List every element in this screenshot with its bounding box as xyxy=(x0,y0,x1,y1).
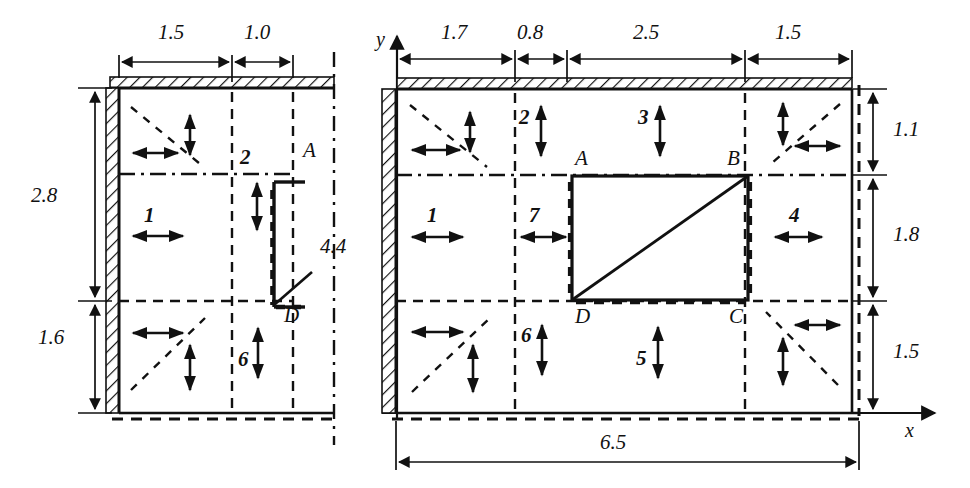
right-point-b: B xyxy=(727,148,740,169)
right-dim-1-5-lower: 1.5 xyxy=(893,341,919,362)
y-axis-label: y xyxy=(376,29,385,49)
right-dim-1-8: 1.8 xyxy=(893,224,919,245)
left-dim-1-5: 1.5 xyxy=(158,22,184,43)
diagram-canvas: 1.5 1.0 2.8 1.6 4.4 2 1 6 A D y x 1.7 0.… xyxy=(0,0,970,488)
left-dim-2-8: 2.8 xyxy=(31,185,57,206)
left-dim-1-0: 1.0 xyxy=(244,22,270,43)
left-grid xyxy=(119,92,293,413)
right-total-dim xyxy=(396,421,859,470)
right-dim-1-1: 1.1 xyxy=(893,119,919,140)
right-wall-support xyxy=(382,89,396,413)
right-region-3: 3 xyxy=(638,107,649,128)
right-v-dim xyxy=(853,89,887,413)
right-point-d: D xyxy=(575,306,590,327)
right-top-support xyxy=(397,78,852,89)
right-region-7: 7 xyxy=(529,205,540,226)
right-region-2: 2 xyxy=(519,107,530,128)
right-dim-2-5: 2.5 xyxy=(633,22,659,43)
right-field-arrows xyxy=(410,103,840,392)
right-region-5: 5 xyxy=(636,348,647,369)
left-point-d: D xyxy=(284,305,299,326)
right-point-a: A xyxy=(575,148,588,169)
diagonal-db xyxy=(572,176,748,300)
diagram-vector-layer xyxy=(0,0,970,488)
right-point-c: C xyxy=(729,306,743,327)
left-top-support xyxy=(110,77,334,88)
left-callout-4-4: 4.4 xyxy=(320,236,346,257)
left-dim-1-6: 1.6 xyxy=(38,327,64,348)
x-axis-label: x xyxy=(905,420,914,440)
left-region-1: 1 xyxy=(144,205,155,226)
right-total-width: 6.5 xyxy=(600,432,626,453)
right-dim-0-8: 0.8 xyxy=(517,22,543,43)
right-region-1: 1 xyxy=(427,205,438,226)
left-wall-support xyxy=(106,88,119,413)
left-point-a: A xyxy=(303,140,316,161)
left-region-2: 2 xyxy=(240,147,251,168)
right-region-4: 4 xyxy=(789,205,800,226)
right-dim-1-7: 1.7 xyxy=(441,22,467,43)
left-collapsed-rectangle xyxy=(272,182,305,307)
right-dim-1-5: 1.5 xyxy=(775,22,801,43)
left-region-6: 6 xyxy=(238,349,249,370)
rectangle-abcd xyxy=(570,176,750,302)
right-h-dim xyxy=(397,50,852,82)
right-region-6: 6 xyxy=(521,325,532,346)
